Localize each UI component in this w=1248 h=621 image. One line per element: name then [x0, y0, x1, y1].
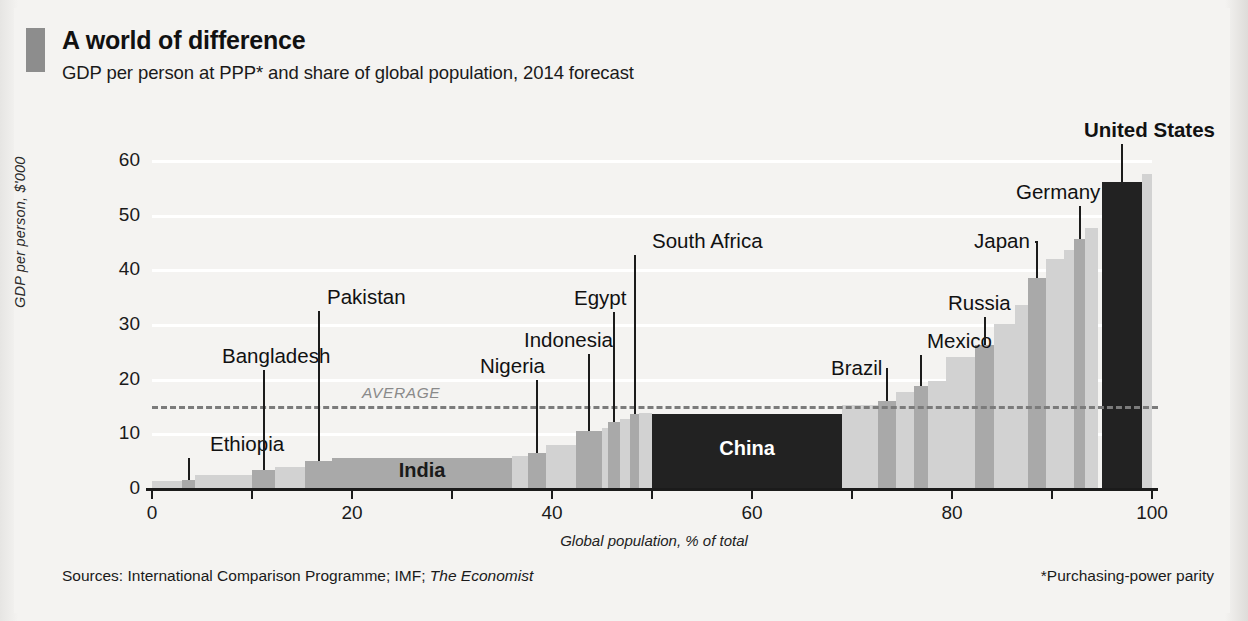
x-axis-tick-label: 40 [541, 502, 562, 524]
y-axis-title: GDP per person, $'000 [12, 156, 28, 308]
bar-unlabeled [546, 445, 576, 488]
bar-ethiopia [182, 480, 195, 488]
x-axis-tick [151, 488, 153, 499]
gridline [152, 160, 1152, 163]
leader-line-vertical [536, 380, 538, 453]
callout-south-africa: South Africa [652, 229, 763, 253]
y-axis-tick-label: 40 [96, 258, 140, 280]
bar-unlabeled [842, 405, 878, 488]
footnote: *Purchasing-power parity [1041, 567, 1214, 585]
bar-japan [1028, 278, 1046, 488]
sources-prefix: Sources: International Comparison Progra… [62, 567, 430, 584]
bar-unlabeled [946, 357, 975, 488]
bar-unlabeled [275, 467, 305, 488]
callout-bangladesh: Bangladesh [222, 344, 330, 368]
x-axis-tick-label: 0 [147, 502, 158, 524]
x-axis-tick [451, 488, 453, 499]
average-label: AVERAGE [362, 384, 440, 402]
y-axis-tick-label: 50 [96, 204, 140, 226]
bar-unlabeled [1015, 305, 1028, 488]
leader-line-vertical [188, 458, 190, 480]
callout-nigeria: Nigeria [480, 354, 545, 378]
chart-page: A world of difference GDP per person at … [0, 0, 1248, 621]
x-axis-tick [551, 488, 553, 499]
average-line [152, 406, 1158, 409]
bar-south-africa [630, 414, 639, 488]
bar-egypt [608, 422, 620, 488]
leader-line-vertical [634, 255, 636, 414]
bar-unlabeled [152, 481, 182, 488]
x-axis-tick [851, 488, 853, 499]
bar-unlabeled [1142, 174, 1152, 488]
x-axis-tick-label: 20 [341, 502, 362, 524]
x-axis-title: Global population, % of total [560, 532, 748, 549]
y-axis-tick-label: 0 [96, 477, 140, 499]
bar-pakistan [305, 461, 332, 488]
x-axis-tick [651, 488, 653, 499]
leader-line-vertical [1121, 144, 1123, 182]
sources-text: Sources: International Comparison Progra… [62, 567, 533, 585]
callout-united-states: United States [1084, 118, 1215, 142]
bar-germany [1074, 239, 1085, 488]
bar-bangladesh [252, 470, 275, 488]
callout-ethiopia: Ethiopia [210, 432, 284, 456]
x-axis-tick-label: 80 [941, 502, 962, 524]
bar-brazil [878, 401, 896, 488]
bar-unlabeled [1085, 228, 1098, 488]
bar-unlabeled [1064, 250, 1074, 488]
bar-unlabeled [512, 456, 528, 488]
x-axis-line [152, 488, 1158, 491]
x-axis-tick [1051, 488, 1053, 499]
chart-sheet: A world of difference GDP per person at … [14, 8, 1230, 613]
y-axis-tick-label: 30 [96, 313, 140, 335]
callout-mexico: Mexico [927, 329, 992, 353]
gridline [152, 269, 1152, 272]
x-axis-tick [1151, 488, 1153, 499]
leader-line-vertical [1036, 241, 1038, 278]
callout-indonesia: Indonesia [524, 328, 613, 352]
callout-japan: Japan [974, 229, 1030, 253]
leader-line-vertical [1079, 206, 1081, 239]
leader-line-vertical [886, 368, 888, 401]
bar-russia [975, 345, 994, 488]
x-axis-tick [951, 488, 953, 499]
gridline [152, 215, 1152, 218]
bar-unlabeled [195, 475, 252, 488]
y-axis-tick-label: 20 [96, 368, 140, 390]
bar-unlabeled [1046, 259, 1064, 488]
y-axis-tick-label: 60 [96, 149, 140, 171]
sources-publication: The Economist [430, 567, 533, 584]
leader-line-vertical [920, 355, 922, 386]
leader-line-vertical [318, 311, 320, 461]
x-axis-tick [251, 488, 253, 499]
leader-line-vertical [984, 317, 986, 345]
bar-mexico [914, 386, 928, 488]
x-axis-tick-label: 100 [1136, 502, 1168, 524]
bar-unlabeled [928, 381, 946, 488]
bar-indonesia [576, 431, 602, 488]
bar-inline-label-china: China [719, 437, 775, 460]
leader-line-vertical [263, 370, 265, 470]
x-axis-tick-label: 60 [741, 502, 762, 524]
chart-plot: GDP per person, $'000 0102030405060 Indi… [14, 8, 1230, 613]
y-axis-tick-label: 10 [96, 422, 140, 444]
leader-line-vertical [588, 354, 590, 431]
leader-line-vertical [613, 312, 615, 422]
callout-egypt: Egypt [574, 286, 626, 310]
callout-russia: Russia [948, 291, 1011, 315]
bar-inline-label-india: India [399, 459, 446, 482]
callout-brazil: Brazil [831, 356, 882, 380]
x-axis-tick [351, 488, 353, 499]
x-axis-tick [751, 488, 753, 499]
bar-nigeria [528, 453, 546, 488]
bar-unlabeled [620, 419, 630, 488]
bar-united-states [1102, 182, 1142, 488]
bar-unlabeled [639, 413, 652, 488]
callout-germany: Germany [1016, 180, 1100, 204]
callout-pakistan: Pakistan [327, 285, 406, 309]
